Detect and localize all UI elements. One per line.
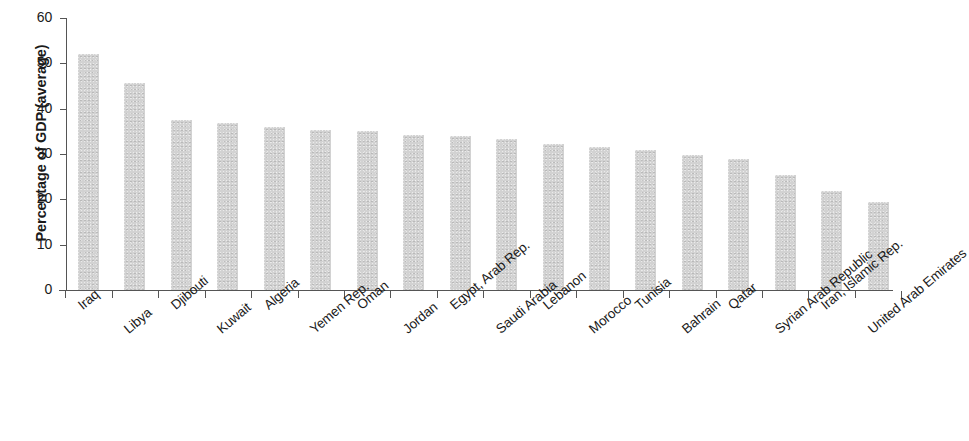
- x-tick-mark: [158, 291, 159, 298]
- bar: [403, 135, 424, 290]
- x-tick-mark: [251, 291, 252, 298]
- y-tick-mark: [60, 245, 67, 246]
- y-tick-mark: [60, 63, 67, 64]
- bar: [775, 175, 796, 290]
- bar: [357, 131, 378, 290]
- bar: [543, 144, 564, 290]
- bar: [450, 136, 471, 290]
- y-tick-label: 40: [14, 100, 52, 116]
- x-tick-label: Bahrain: [679, 296, 723, 337]
- x-tick-mark: [669, 291, 670, 298]
- bar: [635, 150, 656, 290]
- x-tick-mark: [716, 291, 717, 298]
- x-tick-mark: [112, 291, 113, 298]
- x-tick-mark: [762, 291, 763, 298]
- x-tick-label: Morocco: [586, 293, 634, 337]
- y-tick-mark: [60, 18, 67, 19]
- y-tick-mark: [60, 154, 67, 155]
- x-tick-mark: [298, 291, 299, 298]
- x-tick-label: Libya: [121, 305, 155, 337]
- x-tick-mark: [390, 291, 391, 298]
- y-tick-label: 20: [14, 190, 52, 206]
- bar: [124, 83, 145, 290]
- bar: [171, 120, 192, 290]
- x-tick-label: Jordan: [400, 299, 440, 336]
- y-tick-label: 50: [14, 54, 52, 70]
- x-tick-mark: [205, 291, 206, 298]
- y-tick-label: 30: [14, 145, 52, 161]
- y-tick-mark: [60, 109, 67, 110]
- x-tick-mark: [437, 291, 438, 298]
- y-tick-label: 0: [14, 281, 52, 297]
- x-tick-label: Kuwait: [214, 300, 254, 337]
- x-tick-mark: [576, 291, 577, 298]
- x-tick-mark: [483, 291, 484, 298]
- x-tick-mark: [855, 291, 856, 298]
- bar: [589, 147, 610, 290]
- x-tick-mark: [65, 291, 66, 298]
- bar: [310, 130, 331, 290]
- bar: [78, 54, 99, 290]
- bar: [264, 127, 285, 290]
- y-tick-mark: [60, 199, 67, 200]
- y-tick-label: 60: [14, 9, 52, 25]
- bar: [728, 159, 749, 290]
- bar: [217, 123, 238, 290]
- y-tick-label: 10: [14, 236, 52, 252]
- bar: [682, 155, 703, 290]
